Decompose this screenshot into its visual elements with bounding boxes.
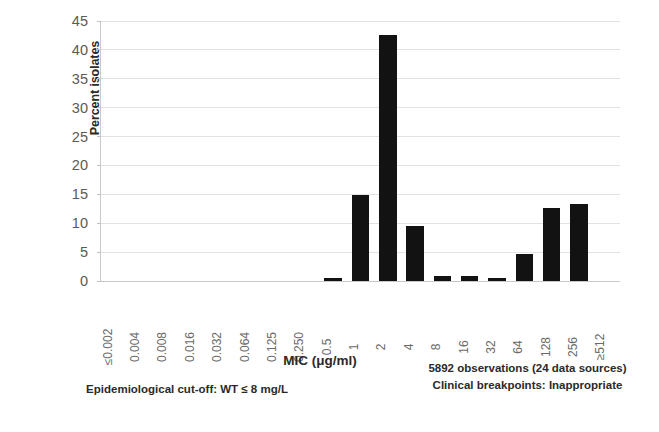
bar bbox=[352, 195, 369, 281]
x-tick-slot: ≤0.002 bbox=[100, 285, 127, 347]
x-tick-slot: 256 bbox=[565, 285, 592, 347]
x-tick-slot: 0.125 bbox=[264, 285, 291, 347]
x-axis-tick-label: 16 bbox=[458, 340, 470, 353]
x-tick-slot: 0.064 bbox=[237, 285, 264, 347]
bar bbox=[324, 278, 341, 281]
x-axis-tick-label: ≤0.002 bbox=[102, 329, 114, 366]
x-tick-slot: 0.004 bbox=[127, 285, 154, 347]
bar-slot bbox=[429, 21, 456, 281]
x-tick-slot: 0.250 bbox=[292, 285, 319, 347]
x-axis-tick-label: 1 bbox=[348, 344, 360, 351]
x-tick-slot: 16 bbox=[456, 285, 483, 347]
bar-slot bbox=[565, 21, 592, 281]
chart-note-left: Epidemiological cut-off: WT ≤ 8 mg/L bbox=[22, 381, 352, 398]
x-axis-tick-label: 4 bbox=[403, 344, 415, 351]
bar bbox=[406, 226, 423, 281]
bar-slot bbox=[511, 21, 538, 281]
bar-slot bbox=[156, 21, 183, 281]
bar-slot bbox=[128, 21, 155, 281]
plot-area bbox=[100, 21, 620, 281]
x-tick-slot: 0.016 bbox=[182, 285, 209, 347]
epidemiological-cutoff-note: Epidemiological cut-off: WT ≤ 8 mg/L bbox=[22, 381, 352, 398]
x-tick-slot: 1 bbox=[346, 285, 373, 347]
bar-slot bbox=[538, 21, 565, 281]
x-tick-slot: 4 bbox=[401, 285, 428, 347]
bar-slot bbox=[292, 21, 319, 281]
x-tick-slot: 0.5 bbox=[319, 285, 346, 347]
bar-slot bbox=[210, 21, 237, 281]
x-axis-tick-label: 64 bbox=[512, 340, 524, 353]
x-axis-tick-label: 0.008 bbox=[156, 332, 168, 362]
bar bbox=[488, 278, 505, 281]
y-axis-tick-labels: 051015202530354045 bbox=[48, 12, 94, 290]
bar-slot bbox=[183, 21, 210, 281]
bar-slot bbox=[347, 21, 374, 281]
y-axis-tick-label: 10 bbox=[48, 216, 88, 231]
bar-slot bbox=[593, 21, 620, 281]
y-axis-tick-label: 0 bbox=[48, 274, 88, 289]
x-tick-slot: 128 bbox=[538, 285, 565, 347]
y-axis-tick-label: 20 bbox=[48, 158, 88, 173]
bar-slot bbox=[238, 21, 265, 281]
x-tick-slot: 0.008 bbox=[155, 285, 182, 347]
bar-slot bbox=[101, 21, 128, 281]
observations-note: 5892 observations (24 data sources) bbox=[396, 360, 659, 377]
clinical-breakpoints-note: Clinical breakpoints: Inappropriate bbox=[396, 377, 659, 394]
y-axis-tick-label: 15 bbox=[48, 187, 88, 202]
y-axis-tick-label: 5 bbox=[48, 245, 88, 260]
x-axis-tick-label: 32 bbox=[485, 340, 497, 353]
x-tick-slot: 0.032 bbox=[210, 285, 237, 347]
bar bbox=[570, 204, 587, 281]
bar-slot bbox=[401, 21, 428, 281]
x-tick-slot: ≥512 bbox=[593, 285, 620, 347]
bar-slot bbox=[483, 21, 510, 281]
bar-slot bbox=[456, 21, 483, 281]
y-axis-tick-label: 30 bbox=[48, 100, 88, 115]
x-axis-tick-label: ≥512 bbox=[594, 334, 606, 361]
mic-distribution-chart: Percent isolates 051015202530354045 ≤0.0… bbox=[0, 0, 659, 432]
chart-note-right: 5892 observations (24 data sources) Clin… bbox=[396, 360, 659, 395]
x-tick-slot: 2 bbox=[374, 285, 401, 347]
y-axis-tick-label: 45 bbox=[48, 14, 88, 29]
x-axis-tick-label: 128 bbox=[540, 337, 552, 357]
bar bbox=[516, 254, 533, 281]
bar-slot bbox=[374, 21, 401, 281]
x-tick-slot: 32 bbox=[483, 285, 510, 347]
x-tick-slot: 64 bbox=[511, 285, 538, 347]
x-tick-slot: 8 bbox=[429, 285, 456, 347]
x-axis-tick-label: 8 bbox=[430, 344, 442, 351]
y-axis-tick-label: 25 bbox=[48, 129, 88, 144]
y-axis-tick-label: 35 bbox=[48, 72, 88, 87]
x-axis-tick-labels: ≤0.0020.0040.0080.0160.0320.0640.1250.25… bbox=[100, 285, 620, 347]
x-axis-tick-label: 256 bbox=[567, 337, 579, 357]
x-axis-tick-label: 2 bbox=[375, 344, 387, 351]
bar-slot bbox=[265, 21, 292, 281]
bar bbox=[461, 276, 478, 281]
y-axis-tick-label: 40 bbox=[48, 43, 88, 58]
bar bbox=[543, 208, 560, 281]
x-axis-tick-label: 0.004 bbox=[129, 332, 141, 362]
bar-slot bbox=[320, 21, 347, 281]
bar bbox=[379, 35, 396, 281]
bar bbox=[434, 276, 451, 281]
bar-series bbox=[101, 21, 620, 281]
